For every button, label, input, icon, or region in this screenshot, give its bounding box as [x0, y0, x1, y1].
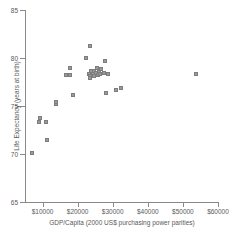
data-point [71, 93, 75, 97]
y-axis-label-wrap: Life Expectancy (years at birth) [6, 10, 18, 202]
data-point [38, 116, 42, 120]
data-point [54, 100, 58, 104]
x-tick-label: $60000 [195, 208, 235, 215]
scatter-chart: 6570758085 $10000$20000$30000$40000$5000… [0, 0, 235, 237]
data-point [106, 72, 110, 76]
data-point [88, 44, 92, 48]
plot-area [25, 10, 218, 202]
data-point [68, 66, 72, 70]
data-point [68, 73, 72, 77]
data-point [95, 66, 99, 70]
data-point [103, 59, 107, 63]
y-axis-label: Life Expectancy (years at birth) [13, 41, 21, 171]
data-point [84, 56, 88, 60]
x-tick [148, 202, 149, 207]
data-point [99, 67, 103, 71]
x-tick [183, 202, 184, 207]
y-tick [20, 202, 25, 203]
data-point [119, 86, 123, 90]
data-point [30, 151, 34, 155]
data-point [44, 120, 48, 124]
data-point [45, 138, 49, 142]
data-point [114, 88, 118, 92]
x-tick [113, 202, 114, 207]
x-tick [218, 202, 219, 207]
data-point [194, 72, 198, 76]
x-axis-label: GDP/Capita (2000 US$ purchasing power pa… [25, 219, 219, 227]
data-point [102, 71, 106, 75]
data-point [104, 91, 108, 95]
x-axis-line [25, 202, 219, 203]
x-tick [78, 202, 79, 207]
data-point [37, 120, 41, 124]
x-tick [43, 202, 44, 207]
